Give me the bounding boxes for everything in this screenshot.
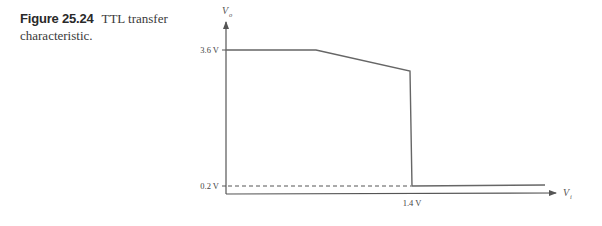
transfer-characteristic-plot: 3.6 V 0.2 V 1.4 V V o V i [0,0,602,226]
y-axis-label-sub: o [229,11,233,18]
x-axis-label: V i [563,187,572,200]
y-axis-label: V o [222,5,233,18]
x-axis [226,193,556,194]
y-tick-label-high: 3.6 V [200,45,220,55]
y-tick-label-low: 0.2 V [200,181,220,191]
x-tick-label-threshold: 1.4 V [403,198,423,208]
transfer-curve [226,50,545,186]
x-axis-label-sub: i [570,193,572,200]
